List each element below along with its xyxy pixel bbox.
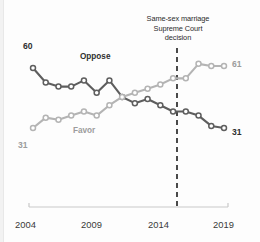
data-point-favor-2019	[222, 63, 227, 68]
data-point-favor-2013	[145, 86, 150, 91]
data-point-oppose-2015	[171, 109, 176, 114]
data-point-oppose-2017	[196, 113, 201, 118]
data-point-oppose-2012	[132, 101, 137, 106]
series-label-favor: Favor	[73, 126, 95, 135]
data-point-favor-2015	[171, 76, 176, 81]
x-axis	[29, 203, 228, 207]
value-label-oppose-end: 31	[232, 127, 242, 137]
data-point-oppose-2010	[107, 78, 112, 83]
data-point-oppose-2008	[81, 78, 86, 83]
annotation-label: Same-sex marriage Supreme Court decision	[122, 14, 234, 43]
data-point-oppose-2006	[56, 84, 61, 89]
data-point-favor-2010	[107, 103, 112, 108]
series-layer	[31, 61, 227, 130]
data-point-favor-2018	[209, 63, 214, 68]
series-label-oppose: Oppose	[80, 52, 110, 61]
data-point-favor-2016	[183, 76, 188, 81]
value-label-oppose-start: 60	[23, 41, 33, 51]
data-point-oppose-2018	[209, 123, 214, 128]
data-point-favor-2009	[94, 113, 99, 118]
data-point-favor-2004	[31, 126, 36, 131]
annotation-line-1: Same-sex marriage	[122, 14, 234, 24]
data-point-oppose-2014	[158, 103, 163, 108]
data-point-favor-2011	[120, 94, 125, 99]
data-point-favor-2014	[158, 82, 163, 87]
x-tick-label-2014: 2014	[148, 219, 169, 230]
chart-container: Same-sex marriage Supreme Court decision…	[0, 0, 260, 242]
x-tick-label-2004: 2004	[15, 219, 36, 230]
annotation-line-3: decision	[122, 33, 234, 43]
series-line-favor	[33, 64, 224, 128]
data-point-favor-2005	[43, 115, 48, 120]
data-point-oppose-2013	[145, 97, 150, 102]
x-tick-label-2009: 2009	[81, 219, 102, 230]
data-point-favor-2006	[56, 117, 61, 122]
data-point-favor-2008	[81, 109, 86, 114]
x-tick-label-2019: 2019	[213, 219, 234, 230]
data-point-oppose-2019	[222, 126, 227, 131]
value-label-favor-start: 31	[18, 140, 28, 150]
data-point-oppose-2007	[69, 84, 74, 89]
data-point-favor-2007	[69, 113, 74, 118]
data-point-favor-2017	[196, 61, 201, 66]
data-point-favor-2012	[132, 90, 137, 95]
data-point-oppose-2016	[183, 109, 188, 114]
annotation-line-2: Supreme Court	[122, 24, 234, 34]
value-label-favor-end: 61	[232, 59, 242, 69]
data-point-oppose-2009	[94, 90, 99, 95]
data-point-oppose-2004	[31, 66, 36, 71]
data-point-oppose-2005	[43, 80, 48, 85]
